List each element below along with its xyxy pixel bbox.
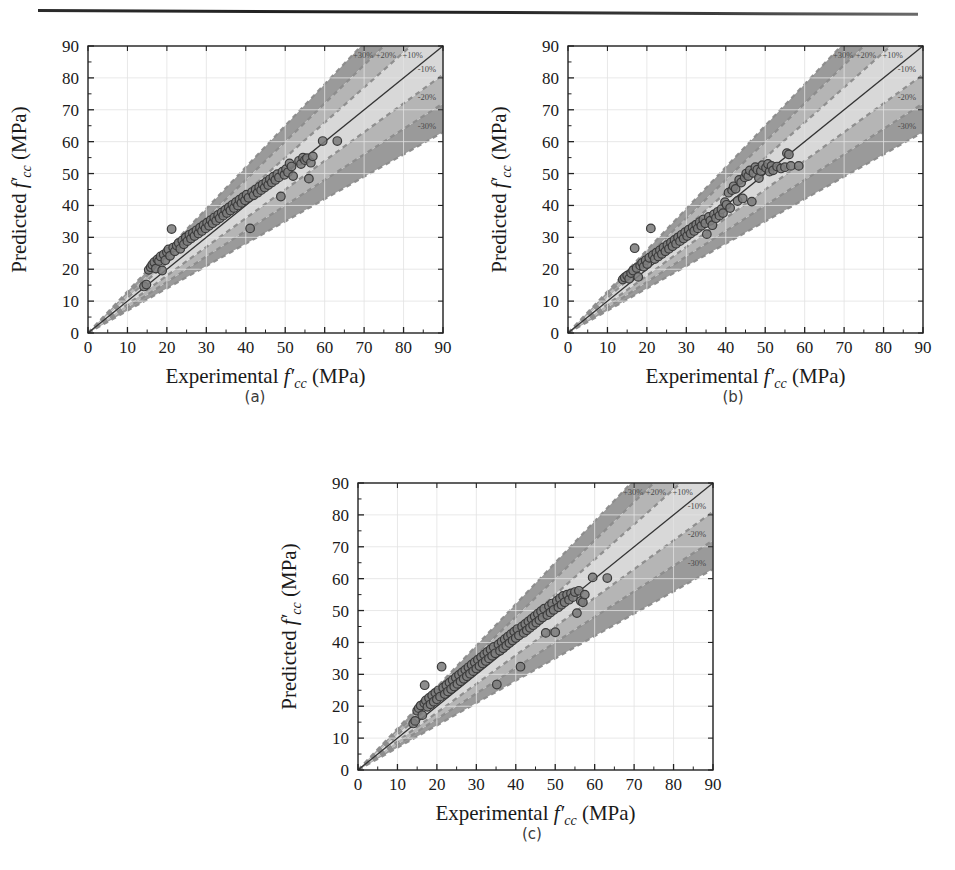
band-label-top: +30% <box>623 487 643 497</box>
data-point <box>588 573 597 582</box>
y-axis-title: Predicted f′cc (MPa) <box>487 106 514 272</box>
data-point <box>551 628 560 637</box>
band-label-top: +10% <box>883 50 903 60</box>
caption-c: (c) <box>492 825 572 843</box>
x-tick-label: 70 <box>356 338 373 357</box>
y-tick-label: 70 <box>542 101 559 120</box>
y-tick-label: 10 <box>62 292 79 311</box>
x-tick-label: 30 <box>678 338 695 357</box>
y-axis-title: Predicted f′cc (MPa) <box>7 106 34 272</box>
data-point <box>167 225 176 234</box>
y-tick-label: 20 <box>332 697 349 716</box>
band-label-right: -20% <box>418 92 436 102</box>
data-point <box>516 662 525 671</box>
x-tick-label: 50 <box>277 338 294 357</box>
x-tick-label: 50 <box>547 775 564 794</box>
data-point <box>411 717 420 726</box>
x-tick-label: 80 <box>875 338 892 357</box>
data-point <box>318 137 327 146</box>
band-label-right: -30% <box>688 558 706 568</box>
x-tick-label: 20 <box>158 338 175 357</box>
y-tick-label: 30 <box>542 228 559 247</box>
y-tick-label: 80 <box>542 69 559 88</box>
x-tick-label: 80 <box>665 775 682 794</box>
y-tick-label: 50 <box>542 165 559 184</box>
x-tick-label: 0 <box>354 775 363 794</box>
data-point <box>277 192 286 201</box>
x-tick-label: 50 <box>757 338 774 357</box>
band-label-top: +20% <box>376 50 396 60</box>
x-tick-label: 60 <box>316 338 333 357</box>
x-tick-label: 80 <box>395 338 412 357</box>
data-point <box>158 266 167 275</box>
y-tick-label: 70 <box>62 101 79 120</box>
x-tick-label: 90 <box>435 338 452 357</box>
x-tick-label: 70 <box>626 775 643 794</box>
data-point <box>418 711 427 720</box>
y-tick-label: 70 <box>332 538 349 557</box>
band-label-right: -10% <box>898 64 916 74</box>
y-tick-label: 60 <box>62 133 79 152</box>
x-tick-label: 30 <box>198 338 215 357</box>
x-axis-title: Experimental f′cc (MPa) <box>165 364 365 391</box>
x-tick-label: 40 <box>507 775 524 794</box>
y-tick-label: 90 <box>332 474 349 493</box>
panel-b: 00101020203030404050506060707080809090+3… <box>480 18 950 438</box>
y-axis-title: Predicted f′cc (MPa) <box>277 543 304 709</box>
band-label-top: +30% <box>353 50 373 60</box>
y-tick-label: 40 <box>62 196 79 215</box>
data-point <box>634 273 643 282</box>
band-label-right: -20% <box>898 92 916 102</box>
x-axis-title: Experimental f′cc (MPa) <box>435 801 635 828</box>
caption-a: (a) <box>215 388 295 406</box>
data-point <box>726 204 735 213</box>
x-tick-label: 90 <box>705 775 722 794</box>
y-tick-label: 0 <box>341 761 350 780</box>
scatter-plot-b: 00101020203030404050506060707080809090+3… <box>480 18 950 438</box>
band-label-top: +10% <box>403 50 423 60</box>
y-tick-label: 10 <box>542 292 559 311</box>
data-point <box>289 172 298 181</box>
data-point <box>420 681 429 690</box>
data-point <box>541 629 550 638</box>
data-point <box>581 590 590 599</box>
band-label-right: -10% <box>418 64 436 74</box>
y-tick-label: 0 <box>551 324 560 343</box>
data-point <box>630 244 639 253</box>
x-tick-label: 30 <box>468 775 485 794</box>
band-label-top: +20% <box>646 487 666 497</box>
x-tick-label: 60 <box>586 775 603 794</box>
data-point <box>309 152 318 161</box>
data-point <box>794 162 803 171</box>
data-point <box>437 662 446 671</box>
y-tick-label: 90 <box>542 37 559 56</box>
band-label-top: +30% <box>833 50 853 60</box>
x-tick-label: 10 <box>389 775 406 794</box>
band-label-right: -10% <box>688 501 706 511</box>
scatter-plot-c: 00101020203030404050506060707080809090+3… <box>270 455 740 870</box>
y-tick-label: 80 <box>62 69 79 88</box>
x-tick-label: 10 <box>119 338 136 357</box>
x-tick-label: 70 <box>836 338 853 357</box>
y-tick-label: 60 <box>332 570 349 589</box>
band-label-right: -30% <box>898 121 916 131</box>
data-point <box>647 224 656 233</box>
y-tick-label: 90 <box>62 37 79 56</box>
data-point <box>246 224 255 233</box>
y-tick-label: 20 <box>62 260 79 279</box>
x-axis-title: Experimental f′cc (MPa) <box>645 364 845 391</box>
page-rule <box>38 9 918 16</box>
x-tick-label: 0 <box>564 338 573 357</box>
data-point <box>573 609 582 618</box>
y-tick-label: 0 <box>71 324 80 343</box>
y-tick-label: 50 <box>332 602 349 621</box>
y-tick-label: 60 <box>542 133 559 152</box>
data-point <box>287 162 296 171</box>
x-tick-label: 10 <box>599 338 616 357</box>
x-tick-label: 60 <box>796 338 813 357</box>
x-tick-label: 40 <box>237 338 254 357</box>
data-point <box>748 197 757 206</box>
y-tick-label: 40 <box>542 196 559 215</box>
panel-a: 00101020203030404050506060707080809090+3… <box>0 18 470 438</box>
x-tick-label: 0 <box>84 338 93 357</box>
